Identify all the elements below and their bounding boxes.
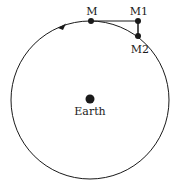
label-m2: M2 xyxy=(131,43,149,56)
label-m1: M1 xyxy=(130,5,148,18)
point-m xyxy=(88,18,94,24)
label-earth: Earth xyxy=(74,105,105,118)
point-m1 xyxy=(135,18,141,24)
orbit-diagram: M M1 M2 Earth xyxy=(0,0,179,185)
point-m2 xyxy=(135,33,141,39)
earth-dot xyxy=(86,95,95,104)
label-m: M xyxy=(86,5,97,18)
